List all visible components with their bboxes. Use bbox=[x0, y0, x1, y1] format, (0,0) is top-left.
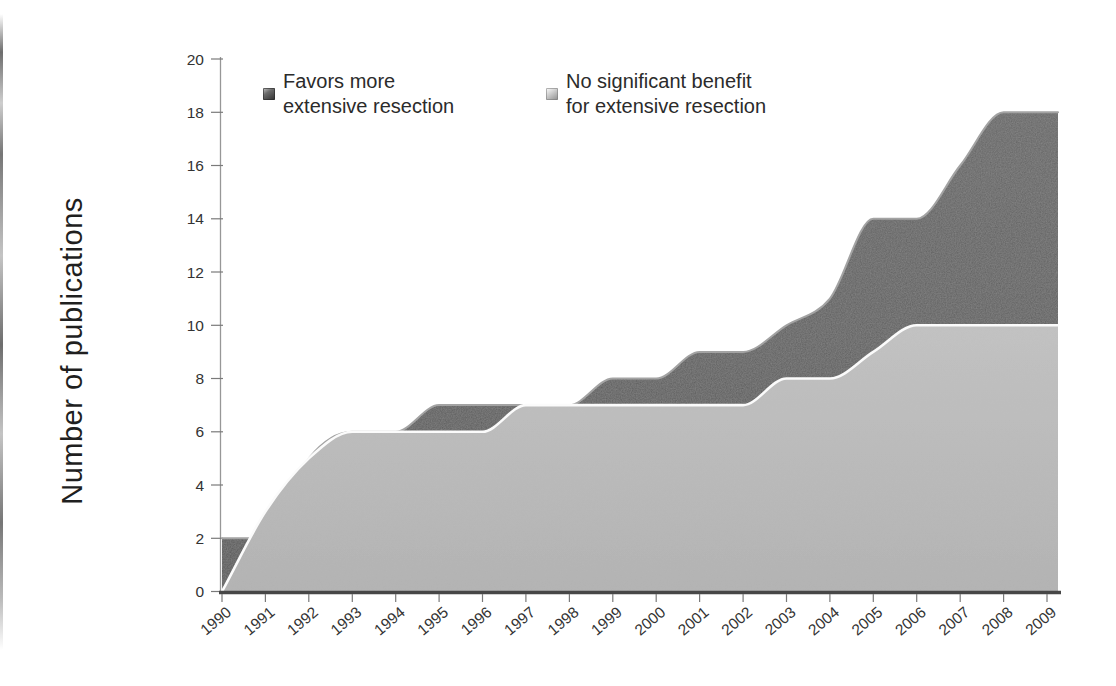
x-tick-label: 1998 bbox=[544, 603, 581, 638]
x-tick-label: 2007 bbox=[935, 603, 972, 638]
x-tick-label: 2005 bbox=[848, 603, 885, 638]
y-tick-label: 8 bbox=[195, 370, 204, 387]
x-tick-label: 1997 bbox=[501, 603, 538, 638]
x-tick-label: 2004 bbox=[805, 603, 843, 638]
y-tick-label: 4 bbox=[195, 477, 204, 494]
x-tick-label: 2000 bbox=[631, 603, 669, 638]
x-tick-label: 1992 bbox=[284, 603, 321, 638]
area-no-significant-benefit bbox=[222, 325, 1058, 591]
y-tick-label: 10 bbox=[187, 317, 205, 334]
x-tick-label: 2001 bbox=[675, 603, 712, 638]
legend-label-line: No significant benefit bbox=[566, 69, 766, 94]
x-tick-label: 1996 bbox=[457, 603, 494, 638]
y-tick-label: 12 bbox=[187, 264, 204, 281]
x-tick-label: 1990 bbox=[197, 603, 235, 638]
x-tick-label: 2008 bbox=[979, 603, 1016, 638]
legend-label-line: extensive resection bbox=[283, 94, 454, 119]
x-tick-label: 2006 bbox=[892, 603, 929, 638]
x-tick-label: 1995 bbox=[414, 603, 451, 638]
x-tick-label: 2003 bbox=[761, 603, 798, 638]
x-tick-label: 1991 bbox=[240, 603, 277, 638]
publications-area-chart-figure: Number of publications 02468101214161820… bbox=[0, 0, 1116, 686]
y-tick-label: 18 bbox=[187, 104, 204, 121]
y-tick-label: 20 bbox=[187, 51, 205, 68]
legend-item-favors-resection: Favors more extensive resection bbox=[263, 69, 454, 119]
legend-marker-light-icon bbox=[546, 88, 558, 100]
x-tick-label: 1994 bbox=[371, 603, 409, 638]
y-tick-label: 16 bbox=[187, 157, 204, 174]
y-tick-label: 2 bbox=[195, 530, 204, 547]
x-tick-label: 2009 bbox=[1022, 603, 1059, 638]
legend-marker-dark-icon bbox=[263, 88, 275, 100]
legend-label-line: for extensive resection bbox=[566, 94, 766, 119]
legend-label-favors-resection: Favors more extensive resection bbox=[283, 69, 454, 119]
y-tick-label: 14 bbox=[187, 210, 205, 227]
legend-label-line: Favors more bbox=[283, 69, 454, 94]
x-tick-label: 1999 bbox=[588, 603, 625, 638]
legend-label-no-benefit: No significant benefit for extensive res… bbox=[566, 69, 766, 119]
y-axis: 02468101214161820 bbox=[187, 51, 223, 601]
x-tick-label: 1993 bbox=[327, 603, 364, 638]
y-tick-label: 0 bbox=[195, 583, 204, 600]
legend-item-no-benefit: No significant benefit for extensive res… bbox=[546, 69, 766, 119]
x-axis: 1990199119921993199419951996199719981999… bbox=[197, 593, 1061, 639]
y-tick-label: 6 bbox=[195, 423, 204, 440]
x-tick-label: 2002 bbox=[718, 603, 755, 638]
